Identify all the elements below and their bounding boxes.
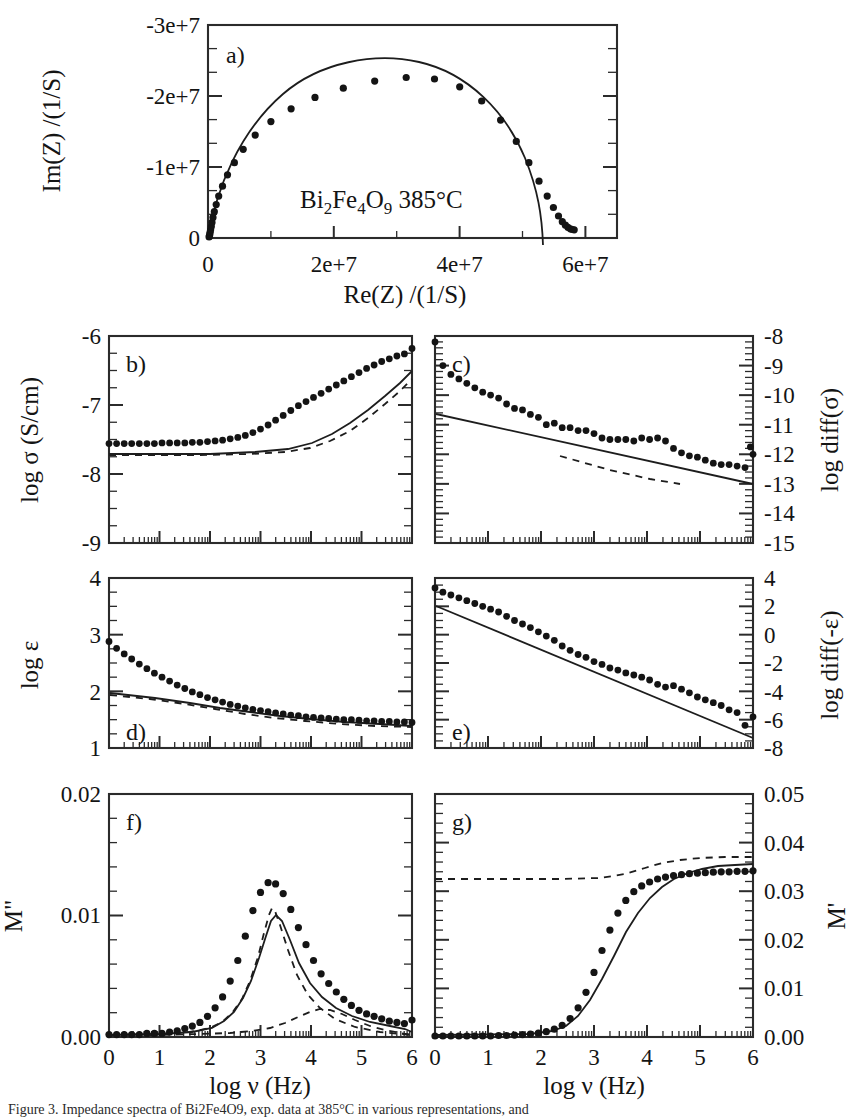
panel-c-ticks <box>435 336 753 543</box>
panel-b-ytick-2: -7 <box>82 393 101 418</box>
panel-c-ytick-3: -12 <box>764 442 795 467</box>
xtick-label: 3 <box>588 1045 600 1070</box>
panel-c: -8 -9 -10 -11 -12 -13 -14 -15 log diff(σ… <box>432 324 844 556</box>
panel-e-ytick-6: 4 <box>764 566 776 591</box>
panel-e-fit <box>436 606 753 738</box>
panel-a-fit-curve <box>209 58 543 245</box>
panel-b: -6 -7 -8 -9 log σ (S/cm) b) <box>16 324 415 556</box>
panel-a-xtick-0: 0 <box>202 252 214 277</box>
panel-g-ticks <box>435 794 753 1037</box>
xtick-label: 3 <box>255 1045 267 1070</box>
panel-c-ytick-7: -8 <box>764 324 783 349</box>
panel-d-ytick-2: 3 <box>90 623 102 648</box>
panel-b-ylabel: log σ (S/cm) <box>16 377 44 503</box>
panel-b-ytick-3: -6 <box>82 324 101 349</box>
panel-f-frame <box>109 794 412 1037</box>
panel-a-ylabel: Im(Z) /(1/S) <box>38 70 66 193</box>
panel-g-fit <box>435 864 753 1035</box>
xtick-label: 0 <box>103 1045 115 1070</box>
panel-e-data-points <box>432 585 757 729</box>
xtick-label: 0 <box>429 1045 441 1070</box>
panel-c-fit <box>436 414 753 484</box>
panel-g-ylabel: M' <box>823 903 850 930</box>
panel-f-ylabel: M" <box>0 900 27 932</box>
panel-e: 4 2 0 -2 -4 -6 -8 log diff(-ε) e) <box>432 566 844 761</box>
panel-c-ytick-1: -14 <box>764 501 795 526</box>
panel-g-ytick-5: 0.05 <box>764 782 804 807</box>
panel-f: 0.02 0.01 0.00 M" f) <box>0 782 416 1050</box>
panel-a-xtick-2: 4e+7 <box>437 252 483 277</box>
panel-d-ytick-0: 1 <box>90 736 102 761</box>
panel-b-ytick-1: -8 <box>82 462 101 487</box>
panel-d-ytick-3: 4 <box>90 566 102 591</box>
panel-a-x-ticks <box>208 226 585 238</box>
panel-c-ytick-0: -15 <box>764 531 795 556</box>
xtick-label: 5 <box>694 1045 706 1070</box>
panel-e-ytick-5: 2 <box>764 594 776 619</box>
panel-d-data-points <box>106 638 416 726</box>
panel-d-ytick-1: 2 <box>90 680 102 705</box>
xtick-label: 5 <box>356 1045 368 1070</box>
panel-g-ytick-0: 0.00 <box>764 1025 804 1050</box>
xtick-label: 2 <box>535 1045 547 1070</box>
panel-e-ytick-1: -6 <box>764 708 783 733</box>
xtick-label: 4 <box>641 1045 653 1070</box>
panel-a-ytick-0: 0 <box>189 226 201 251</box>
panel-c-ytick-2: -13 <box>764 472 795 497</box>
panel-b-tag: b) <box>126 351 146 377</box>
panel-c-ytick-4: -11 <box>764 413 794 438</box>
panel-g-frame <box>435 794 753 1037</box>
figure-impedance-spectra: 0 -1e+7 -2e+7 -3e+7 0 2e+7 4e+7 6e+7 Re(… <box>0 0 867 1119</box>
panel-g-ytick-3: 0.03 <box>764 879 804 904</box>
panel-a-xlabel: Re(Z) /(1/S) <box>344 281 467 309</box>
panel-g-data-points <box>431 867 756 1039</box>
bottom-xaxis-left: 0123456 <box>103 1045 418 1070</box>
panel-c-ylabel: log diff(σ) <box>816 388 844 492</box>
panel-c-data-points <box>432 339 757 472</box>
xtick-label: 1 <box>482 1045 494 1070</box>
panel-e-ytick-0: -8 <box>764 736 783 761</box>
panel-g-ytick-4: 0.04 <box>764 831 805 856</box>
panel-g: 0.05 0.04 0.03 0.02 0.01 0.00 M' g) <box>431 782 850 1050</box>
panel-a: 0 -1e+7 -2e+7 -3e+7 0 2e+7 4e+7 6e+7 Re(… <box>38 13 617 309</box>
panel-e-tag: e) <box>452 719 471 745</box>
panel-g-ytick-1: 0.01 <box>764 976 804 1001</box>
panel-a-ytick-1: -1e+7 <box>146 155 200 180</box>
panel-e-ytick-3: -2 <box>764 651 783 676</box>
panel-a-ytick-2: -2e+7 <box>146 84 200 109</box>
panel-f-xlabel: log ν (Hz) <box>209 1072 311 1100</box>
panel-c-frame <box>435 336 753 543</box>
panel-a-ytick-3: -3e+7 <box>146 13 200 38</box>
sample-annotation: Bi2Fe4O9 385°C <box>300 186 463 218</box>
panel-b-ytick-0: -9 <box>82 531 101 556</box>
panel-a-xtick-3: 6e+7 <box>562 252 608 277</box>
xtick-label: 4 <box>305 1045 317 1070</box>
panel-f-ytick-2: 0.02 <box>61 782 101 807</box>
panel-e-ytick-4: 0 <box>764 623 776 648</box>
panel-c-dashed <box>560 456 680 484</box>
panel-f-ytick-1: 0.01 <box>61 903 101 928</box>
xtick-label: 2 <box>204 1045 216 1070</box>
panel-g-xlabel: log ν (Hz) <box>543 1072 645 1100</box>
xtick-label: 6 <box>747 1045 759 1070</box>
panel-f-data-points <box>105 879 415 1038</box>
panel-g-tag: g) <box>452 809 472 835</box>
panel-b-data-points <box>106 345 416 447</box>
panel-d-tag: d) <box>126 719 146 745</box>
panel-c-ytick-5: -10 <box>764 383 795 408</box>
panel-d-ylabel: log ε <box>16 641 43 690</box>
bottom-xaxis-right: 0123456 <box>429 1045 759 1070</box>
panel-c-tag: c) <box>452 351 471 377</box>
panel-a-tag: a) <box>226 42 245 68</box>
panel-e-ytick-2: -4 <box>764 680 784 705</box>
figure-svg: 0 -1e+7 -2e+7 -3e+7 0 2e+7 4e+7 6e+7 Re(… <box>0 0 867 1119</box>
panel-c-ytick-6: -9 <box>764 354 783 379</box>
panel-f-ytick-0: 0.00 <box>61 1025 101 1050</box>
panel-g-ytick-2: 0.02 <box>764 928 804 953</box>
panel-d: 4 3 2 1 log ε d) <box>16 566 415 761</box>
figure-caption: Figure 3. Impedance spectra of Bi2Fe4O9,… <box>8 1102 529 1117</box>
panel-f-ticks <box>109 794 412 1037</box>
xtick-label: 1 <box>154 1045 166 1070</box>
panel-e-ylabel: log diff(-ε) <box>816 610 844 719</box>
xtick-label: 6 <box>406 1045 418 1070</box>
